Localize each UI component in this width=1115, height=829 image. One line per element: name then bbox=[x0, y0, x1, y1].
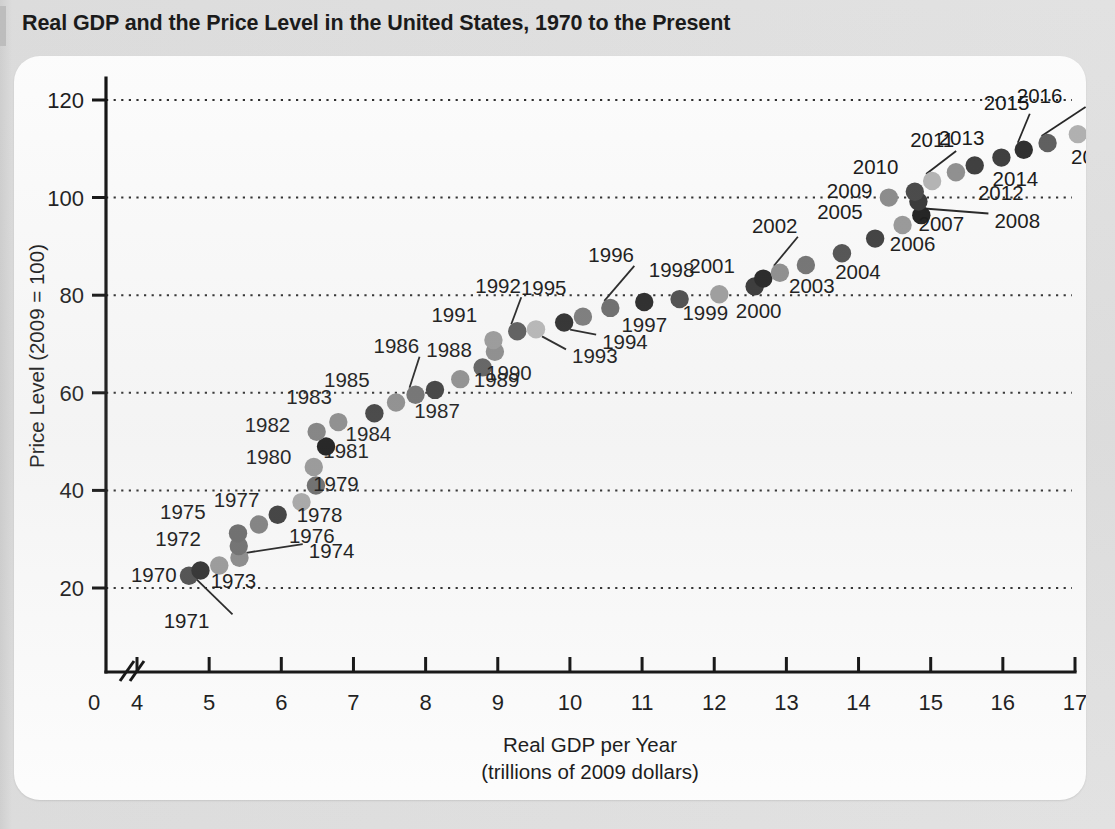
chart-card: 2040608010012004567891011121314151617Rea… bbox=[14, 56, 1086, 800]
point-label-1970: 1970 bbox=[131, 563, 177, 586]
x-tick-label-11: 11 bbox=[631, 690, 654, 715]
leader-line-1996 bbox=[604, 266, 634, 301]
data-point-2012[interactable] bbox=[947, 163, 965, 181]
point-label-1999: 1999 bbox=[682, 301, 728, 324]
point-label-1986: 1986 bbox=[374, 334, 420, 357]
data-point-2017[interactable] bbox=[1069, 125, 1086, 143]
point-label-1980: 1980 bbox=[246, 445, 292, 468]
point-label-2016: 2016 bbox=[1017, 84, 1063, 107]
x-tick-label-12: 12 bbox=[702, 690, 726, 715]
point-label-2000: 2000 bbox=[736, 299, 782, 322]
title-accent-bar bbox=[0, 6, 6, 46]
leader-line-1986 bbox=[410, 357, 420, 388]
point-label-2009: 2009 bbox=[827, 179, 873, 202]
data-point-1984[interactable] bbox=[365, 404, 383, 422]
leader-line-1992 bbox=[511, 297, 521, 324]
point-label-1972: 1972 bbox=[155, 527, 201, 550]
data-point-1987[interactable] bbox=[426, 381, 444, 399]
page-title: Real GDP and the Price Level in the Unit… bbox=[22, 11, 730, 36]
data-point-1977[interactable] bbox=[269, 506, 287, 524]
point-label-1973: 1973 bbox=[211, 569, 257, 592]
x-tick-label-6: 6 bbox=[275, 690, 287, 715]
data-point-1994[interactable] bbox=[555, 313, 573, 331]
title-bar: Real GDP and the Price Level in the Unit… bbox=[0, 0, 1115, 52]
y-tick-label-40: 40 bbox=[60, 478, 84, 503]
x-tick-label-16: 16 bbox=[991, 690, 1015, 715]
point-label-1977: 1977 bbox=[214, 488, 260, 511]
point-label-2001: 2001 bbox=[689, 254, 735, 277]
leader-line-2002 bbox=[774, 237, 798, 266]
x-tick-label-9: 9 bbox=[492, 690, 504, 715]
page-background: Real GDP and the Price Level in the Unit… bbox=[0, 0, 1115, 829]
data-point-2014[interactable] bbox=[992, 148, 1010, 166]
point-label-1985: 1985 bbox=[324, 368, 370, 391]
data-point-1991[interactable] bbox=[484, 331, 502, 349]
point-label-1987: 1987 bbox=[414, 399, 460, 422]
y-tick-label-100: 100 bbox=[47, 186, 84, 211]
point-label-2008: 2008 bbox=[994, 209, 1040, 232]
point-label-1996: 1996 bbox=[588, 243, 634, 266]
data-point-2005[interactable] bbox=[866, 229, 884, 247]
data-point-1996[interactable] bbox=[601, 299, 619, 317]
point-label-2014: 2014 bbox=[993, 167, 1039, 190]
data-point-1985[interactable] bbox=[387, 393, 405, 411]
x-tick-label-15: 15 bbox=[918, 690, 942, 715]
data-point-2001[interactable] bbox=[754, 269, 772, 287]
point-label-1990: 1990 bbox=[486, 361, 532, 384]
point-label-1998: 1998 bbox=[649, 258, 695, 281]
point-label-2010: 2010 bbox=[853, 155, 899, 178]
point-label-1979: 1979 bbox=[313, 472, 359, 495]
x-tick-label-5: 5 bbox=[203, 690, 215, 715]
leader-line-1994 bbox=[570, 330, 596, 335]
data-point-1993[interactable] bbox=[527, 320, 545, 338]
data-point-2013[interactable] bbox=[966, 156, 984, 174]
data-point-1997[interactable] bbox=[635, 293, 653, 311]
y-tick-label-80: 80 bbox=[60, 283, 84, 308]
point-label-2006: 2006 bbox=[890, 232, 936, 255]
data-point-1988[interactable] bbox=[451, 370, 469, 388]
x-tick-label-17: 17 bbox=[1063, 690, 1086, 715]
data-point-1971[interactable] bbox=[191, 561, 209, 579]
data-point-1975[interactable] bbox=[229, 524, 247, 542]
point-label-1997: 1997 bbox=[621, 313, 667, 336]
point-label-1976: 1976 bbox=[289, 524, 335, 547]
point-label-1982: 1982 bbox=[245, 413, 291, 436]
leader-line-2015 bbox=[1018, 114, 1030, 143]
scatter-plot: 2040608010012004567891011121314151617Rea… bbox=[14, 56, 1086, 800]
data-point-2010[interactable] bbox=[906, 183, 924, 201]
x-tick-label-13: 13 bbox=[774, 690, 798, 715]
x-tick-label-4: 4 bbox=[131, 690, 143, 715]
point-label-1988: 1988 bbox=[426, 338, 472, 361]
point-label-1992: 1992 bbox=[475, 274, 521, 297]
point-label-1971: 1971 bbox=[164, 609, 210, 632]
x-tick-label-10: 10 bbox=[558, 690, 582, 715]
x-tick-label-14: 14 bbox=[846, 690, 870, 715]
data-point-2003[interactable] bbox=[797, 256, 815, 274]
data-point-2015[interactable] bbox=[1015, 141, 1033, 159]
y-tick-label-120: 120 bbox=[47, 88, 84, 113]
x-tick-label-0: 0 bbox=[88, 690, 100, 715]
data-point-2016[interactable] bbox=[1038, 134, 1056, 152]
data-point-1980[interactable] bbox=[305, 458, 323, 476]
x-tick-label-7: 7 bbox=[347, 690, 359, 715]
leader-line-1993 bbox=[542, 336, 566, 349]
point-label-1984: 1984 bbox=[346, 422, 392, 445]
y-axis-title: Price Level (2009 = 100) bbox=[25, 244, 48, 468]
data-point-1992[interactable] bbox=[508, 322, 526, 340]
point-label-2017: 2017 bbox=[1071, 145, 1086, 168]
point-label-2007: 2007 bbox=[919, 212, 965, 235]
data-point-1995[interactable] bbox=[574, 307, 592, 325]
point-label-1978: 1978 bbox=[297, 503, 343, 526]
point-label-2004: 2004 bbox=[835, 260, 881, 283]
point-label-1991: 1991 bbox=[431, 303, 477, 326]
point-label-1975: 1975 bbox=[160, 500, 206, 523]
point-label-2003: 2003 bbox=[789, 274, 835, 297]
data-point-2009[interactable] bbox=[880, 188, 898, 206]
data-point-1982[interactable] bbox=[307, 423, 325, 441]
data-point-2002[interactable] bbox=[771, 264, 789, 282]
data-point-1976[interactable] bbox=[250, 515, 268, 533]
x-tick-label-8: 8 bbox=[419, 690, 431, 715]
point-label-2002: 2002 bbox=[752, 214, 798, 237]
y-tick-label-60: 60 bbox=[60, 381, 84, 406]
data-point-2011[interactable] bbox=[923, 172, 941, 190]
